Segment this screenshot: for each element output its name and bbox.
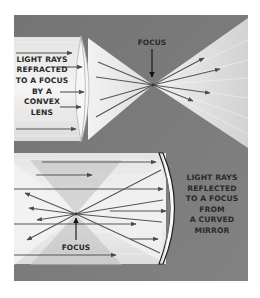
mirror-focus-label: FOCUS bbox=[62, 243, 91, 252]
lens-mirror-diagram: FOCUS LIGHT RAYS REFRACTED TO A FOCUS BY… bbox=[0, 0, 260, 298]
focus-label: FOCUS bbox=[138, 38, 167, 47]
mirror-focus-point bbox=[75, 213, 78, 216]
svg-text:A CURVED: A CURVED bbox=[190, 215, 234, 224]
illustration-canvas: FOCUS LIGHT RAYS REFRACTED TO A FOCUS BY… bbox=[0, 0, 260, 298]
svg-text:MIRROR: MIRROR bbox=[195, 226, 230, 235]
svg-text:LIGHT RAYS: LIGHT RAYS bbox=[186, 173, 237, 182]
focus-point bbox=[152, 84, 155, 87]
svg-text:TO A FOCUS: TO A FOCUS bbox=[16, 76, 69, 85]
svg-text:FROM: FROM bbox=[199, 205, 224, 214]
svg-text:REFRACTED: REFRACTED bbox=[16, 65, 67, 74]
svg-text:TO A FOCUS: TO A FOCUS bbox=[186, 194, 239, 203]
svg-text:REFLECTED: REFLECTED bbox=[187, 184, 236, 193]
svg-text:LENS: LENS bbox=[31, 108, 53, 117]
svg-text:LIGHT RAYS: LIGHT RAYS bbox=[16, 55, 67, 64]
svg-text:CONVEX: CONVEX bbox=[24, 97, 60, 106]
svg-text:BY A: BY A bbox=[32, 87, 52, 96]
